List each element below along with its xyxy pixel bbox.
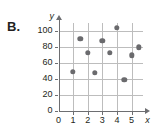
scatter-plot: 020406080100012345yx (0, 0, 160, 137)
figure-panel: B. 020406080100012345yx (0, 0, 160, 137)
x-tick-label: 0 (54, 116, 64, 125)
data-point (136, 45, 141, 50)
data-point (78, 36, 83, 41)
x-axis-label: x (145, 116, 150, 125)
y-axis (59, 20, 61, 111)
y-tick (55, 31, 58, 32)
x-tick-label: 2 (83, 116, 93, 125)
y-axis-arrow-icon (56, 15, 62, 20)
data-point (85, 50, 90, 55)
y-tick-label: 60 (31, 58, 53, 67)
data-point (92, 70, 97, 75)
x-axis-arrow-icon (145, 108, 150, 114)
x-tick-label: 5 (127, 116, 137, 125)
gridline-vertical (132, 23, 133, 111)
y-tick-label: 0 (31, 106, 53, 115)
y-tick-label: 80 (31, 42, 53, 51)
y-tick (55, 111, 58, 112)
x-tick-label: 3 (97, 116, 107, 125)
y-tick (55, 79, 58, 80)
gridline-vertical (73, 23, 74, 111)
data-point (121, 77, 126, 82)
x-tick-label: 1 (68, 116, 78, 125)
gridline-vertical (88, 23, 89, 111)
data-point (129, 53, 134, 58)
y-tick-label: 40 (31, 74, 53, 83)
gridline-vertical (117, 23, 118, 111)
y-tick (55, 63, 58, 64)
y-tick-label: 20 (31, 90, 53, 99)
gridline-vertical (102, 23, 103, 111)
y-tick (55, 47, 58, 48)
data-point (107, 50, 112, 55)
gridline-horizontal (59, 47, 144, 48)
gridline-horizontal (59, 79, 144, 80)
x-tick-label: 4 (112, 116, 122, 125)
y-axis-label: y (50, 12, 55, 21)
y-tick (55, 95, 58, 96)
gridline-horizontal (59, 63, 144, 64)
data-point (70, 69, 75, 74)
gridline-horizontal (59, 31, 144, 32)
data-point (100, 38, 105, 43)
gridline-horizontal (59, 95, 144, 96)
y-tick-label: 100 (31, 26, 53, 35)
